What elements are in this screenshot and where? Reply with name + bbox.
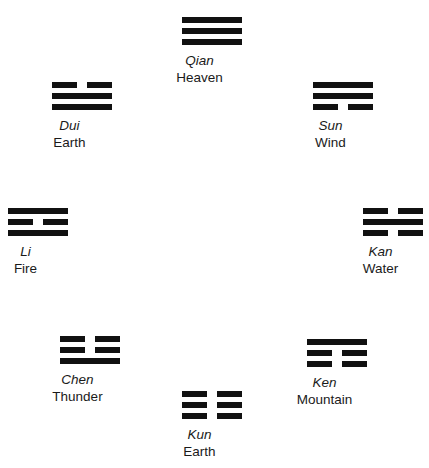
line-segment-half bbox=[43, 219, 68, 225]
trigram-line-solid bbox=[8, 208, 68, 214]
trigram-line-solid bbox=[363, 219, 423, 225]
trigram-ken[interactable]: KenMountain bbox=[307, 339, 367, 409]
line-segment-half bbox=[363, 208, 388, 214]
trigram-labels-kun: KunEarth bbox=[145, 426, 255, 461]
trigram-line-broken bbox=[363, 230, 423, 236]
line-segment-full bbox=[182, 17, 242, 23]
trigram-meaning-ken: Mountain bbox=[270, 391, 380, 409]
line-segment-half bbox=[8, 219, 33, 225]
line-segment-half bbox=[313, 104, 338, 110]
trigram-meaning-kun: Earth bbox=[145, 443, 255, 461]
line-segment-half bbox=[52, 82, 77, 88]
line-segment-full bbox=[182, 39, 242, 45]
trigram-line-broken bbox=[313, 104, 373, 110]
trigram-meaning-sun: Wind bbox=[276, 134, 386, 152]
line-segment-full bbox=[363, 219, 423, 225]
trigram-meaning-li: Fire bbox=[0, 260, 81, 278]
trigram-labels-qian: QianHeaven bbox=[145, 52, 255, 87]
trigram-line-solid bbox=[182, 39, 242, 45]
line-segment-full bbox=[307, 339, 367, 345]
line-segment-half bbox=[182, 391, 207, 397]
line-segment-half bbox=[95, 336, 120, 342]
line-segment-half bbox=[87, 82, 112, 88]
trigram-line-solid bbox=[182, 17, 242, 23]
line-segment-half bbox=[398, 208, 423, 214]
trigram-line-broken bbox=[363, 208, 423, 214]
trigram-labels-chen: ChenThunder bbox=[23, 371, 133, 406]
trigram-line-solid bbox=[52, 104, 112, 110]
trigram-symbol-chen-icon bbox=[60, 336, 120, 364]
trigram-meaning-kan: Water bbox=[326, 260, 429, 278]
line-segment-half bbox=[307, 361, 332, 367]
line-segment-full bbox=[313, 93, 373, 99]
trigram-labels-kan: KanWater bbox=[326, 243, 429, 278]
trigram-line-broken bbox=[52, 82, 112, 88]
trigram-line-broken bbox=[60, 336, 120, 342]
trigram-labels-li: LiFire bbox=[0, 243, 81, 278]
trigram-labels-ken: KenMountain bbox=[270, 374, 380, 409]
line-segment-full bbox=[60, 358, 120, 364]
trigram-line-broken bbox=[307, 361, 367, 367]
trigram-symbol-qian-icon bbox=[182, 17, 242, 45]
trigram-meaning-dui: Earth bbox=[15, 134, 125, 152]
trigram-line-broken bbox=[307, 350, 367, 356]
trigram-symbol-dui-icon bbox=[52, 82, 112, 110]
trigram-line-solid bbox=[8, 230, 68, 236]
line-segment-full bbox=[52, 104, 112, 110]
line-segment-half bbox=[217, 391, 242, 397]
trigram-meaning-qian: Heaven bbox=[145, 69, 255, 87]
trigram-name-qian: Qian bbox=[145, 52, 255, 69]
trigram-line-broken bbox=[182, 391, 242, 397]
trigram-name-li: Li bbox=[0, 243, 81, 260]
trigram-line-broken bbox=[60, 347, 120, 353]
trigram-kan[interactable]: KanWater bbox=[363, 208, 423, 278]
trigram-name-kun: Kun bbox=[145, 426, 255, 443]
line-segment-half bbox=[342, 361, 367, 367]
trigram-symbol-li-icon bbox=[8, 208, 68, 236]
line-segment-half bbox=[348, 104, 373, 110]
trigram-name-ken: Ken bbox=[270, 374, 380, 391]
trigram-line-broken bbox=[182, 413, 242, 419]
trigram-line-solid bbox=[52, 93, 112, 99]
line-segment-half bbox=[398, 230, 423, 236]
line-segment-half bbox=[342, 350, 367, 356]
line-segment-full bbox=[8, 230, 68, 236]
line-segment-half bbox=[95, 347, 120, 353]
trigram-labels-dui: DuiEarth bbox=[15, 117, 125, 152]
trigram-chen[interactable]: ChenThunder bbox=[60, 336, 120, 406]
line-segment-half bbox=[217, 413, 242, 419]
line-segment-full bbox=[182, 28, 242, 34]
line-segment-half bbox=[60, 347, 85, 353]
line-segment-full bbox=[313, 82, 373, 88]
trigram-labels-sun: SunWind bbox=[276, 117, 386, 152]
trigram-symbol-sun-icon bbox=[313, 82, 373, 110]
trigram-line-broken bbox=[8, 219, 68, 225]
trigram-qian[interactable]: QianHeaven bbox=[182, 17, 242, 87]
trigram-symbol-kan-icon bbox=[363, 208, 423, 236]
trigram-name-chen: Chen bbox=[23, 371, 133, 388]
trigram-line-solid bbox=[313, 93, 373, 99]
trigram-name-sun: Sun bbox=[276, 117, 386, 134]
line-segment-full bbox=[52, 93, 112, 99]
line-segment-half bbox=[307, 350, 332, 356]
trigram-symbol-kun-icon bbox=[182, 391, 242, 419]
bagua-diagram: QianHeavenDuiEarthSunWindLiFireKanWaterC… bbox=[0, 0, 429, 468]
line-segment-half bbox=[217, 402, 242, 408]
trigram-line-solid bbox=[60, 358, 120, 364]
line-segment-half bbox=[182, 402, 207, 408]
line-segment-half bbox=[182, 413, 207, 419]
trigram-kun[interactable]: KunEarth bbox=[182, 391, 242, 461]
trigram-line-solid bbox=[182, 28, 242, 34]
trigram-line-solid bbox=[307, 339, 367, 345]
trigram-symbol-ken-icon bbox=[307, 339, 367, 367]
line-segment-half bbox=[363, 230, 388, 236]
trigram-dui[interactable]: DuiEarth bbox=[52, 82, 112, 152]
trigram-li[interactable]: LiFire bbox=[8, 208, 68, 278]
trigram-meaning-chen: Thunder bbox=[23, 388, 133, 406]
trigram-line-broken bbox=[182, 402, 242, 408]
line-segment-full bbox=[8, 208, 68, 214]
trigram-line-solid bbox=[313, 82, 373, 88]
trigram-name-kan: Kan bbox=[326, 243, 429, 260]
trigram-sun[interactable]: SunWind bbox=[313, 82, 373, 152]
trigram-name-dui: Dui bbox=[15, 117, 125, 134]
